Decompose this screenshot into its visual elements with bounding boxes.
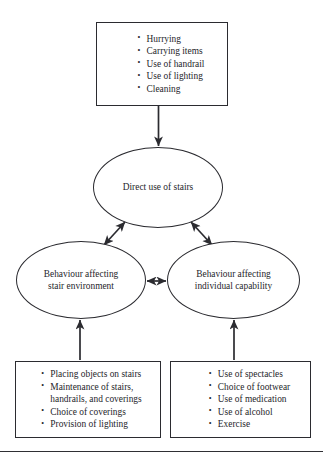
- node-behaviour-individual-capability: Behaviour affecting individual capabilit…: [167, 241, 300, 319]
- connector-direct-use-to-stair-environment: [104, 222, 125, 245]
- list-item: Maintenance of stairs, handrails, and co…: [41, 381, 141, 406]
- list-item: Carrying items: [138, 45, 205, 58]
- connector-direct-use-to-individual-capability: [191, 222, 212, 245]
- list-item: Provision of lighting: [41, 418, 141, 431]
- list-item: Use of handrail: [138, 58, 205, 71]
- environment-factors-list: Placing objects on stairs Maintenance of…: [41, 368, 141, 431]
- list-item: Choice of footwear: [209, 381, 290, 394]
- node-direct-use-of-stairs: Direct use of stairs: [93, 147, 223, 228]
- node-behaviour-stair-environment: Behaviour affecting stair environment: [16, 241, 146, 319]
- diagram-canvas: Hurrying Carrying items Use of handrail …: [0, 0, 323, 466]
- list-item: Choice of coverings: [41, 406, 141, 419]
- node-capability-factors: Use of spectacles Choice of footwear Use…: [170, 361, 311, 438]
- footer-divider: [0, 451, 323, 452]
- node-environment-factors: Placing objects on stairs Maintenance of…: [15, 361, 161, 438]
- node-label: Direct use of stairs: [113, 181, 204, 193]
- node-label: Behaviour affecting individual capabilit…: [185, 268, 282, 293]
- node-label: Behaviour affecting stair environment: [34, 268, 129, 293]
- list-item: Use of spectacles: [209, 368, 290, 381]
- list-item: Exercise: [209, 418, 290, 431]
- list-item: Cleaning: [138, 83, 205, 96]
- list-item: Placing objects on stairs: [41, 368, 141, 381]
- capability-factors-list: Use of spectacles Choice of footwear Use…: [209, 368, 290, 431]
- top-factors-list: Hurrying Carrying items Use of handrail …: [138, 33, 205, 96]
- list-item: Use of lighting: [138, 70, 205, 83]
- list-item: Use of alcohol: [209, 406, 290, 419]
- node-top-factors: Hurrying Carrying items Use of handrail …: [96, 22, 228, 106]
- list-item: Use of medication: [209, 393, 290, 406]
- list-item: Hurrying: [138, 33, 205, 46]
